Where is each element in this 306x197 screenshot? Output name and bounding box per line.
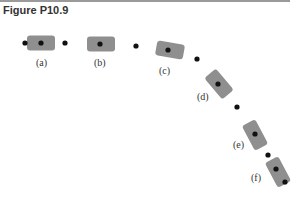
car-path-diagram: (a)(b)(c)(d)(e)(f) [0, 0, 306, 197]
position-dot [282, 179, 287, 184]
car-label: (d) [197, 91, 209, 103]
position-dot [215, 81, 220, 86]
position-dot [194, 56, 199, 61]
car-label: (b) [94, 57, 106, 69]
car-label: (a) [36, 57, 47, 69]
position-dot [62, 40, 67, 45]
car-label: (c) [159, 65, 170, 77]
position-dot [38, 40, 43, 45]
position-dot [252, 131, 257, 136]
car-label: (e) [233, 139, 244, 151]
position-dot [22, 40, 27, 45]
position-dot [165, 47, 170, 52]
position-dot [97, 41, 102, 46]
position-dot [273, 166, 278, 171]
position-dot [265, 152, 270, 157]
car-label: (f) [251, 172, 261, 184]
position-dot [234, 104, 239, 109]
position-dot [133, 43, 138, 48]
